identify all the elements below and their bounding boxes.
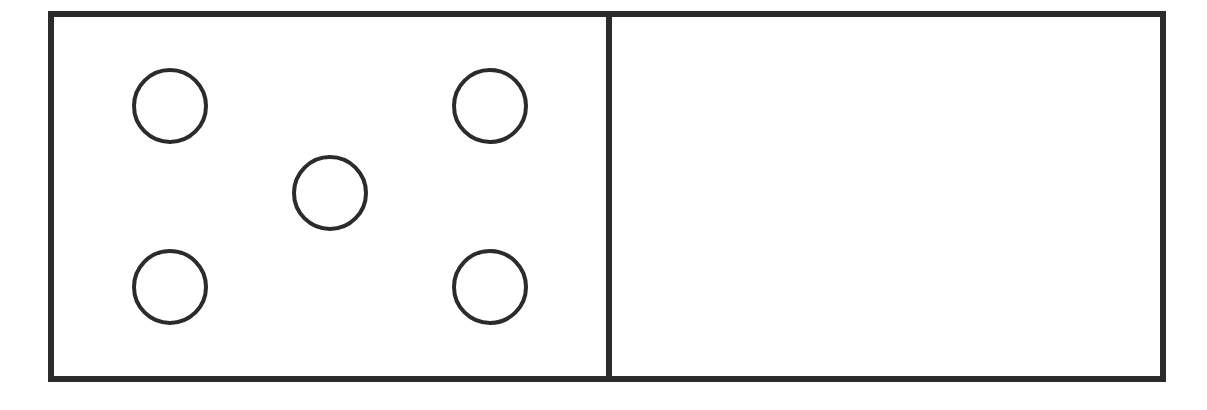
- pip-circle: [452, 249, 528, 325]
- domino-right-half: [612, 17, 1160, 376]
- pip-circle: [452, 68, 528, 144]
- domino-tile: [48, 11, 1166, 382]
- pip-circle: [132, 68, 208, 144]
- pip-circle: [292, 155, 368, 231]
- pip-circle: [132, 249, 208, 325]
